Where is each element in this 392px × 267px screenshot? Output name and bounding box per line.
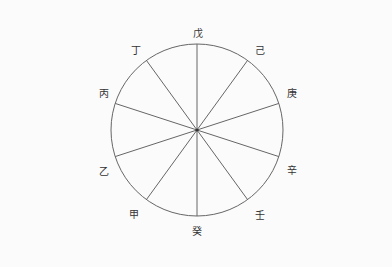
wheel-label: 癸	[192, 223, 202, 238]
spoke-line	[197, 130, 279, 157]
center-point	[196, 129, 199, 132]
wheel-label: 丁	[131, 42, 141, 57]
wheel-label: 壬	[255, 207, 265, 222]
spoke-line	[115, 130, 197, 157]
spoke-line	[197, 103, 279, 130]
spoke-line	[197, 130, 248, 200]
wheel-label: 乙	[99, 163, 109, 178]
wheel-label: 庚	[287, 85, 297, 100]
wheel-label: 戊	[193, 25, 203, 40]
spoke-line	[146, 60, 197, 130]
wheel-label: 辛	[287, 162, 297, 177]
spoke-line	[146, 130, 197, 200]
wheel-label: 己	[255, 42, 265, 57]
spoke-line	[197, 60, 248, 130]
wheel-label: 丙	[99, 85, 109, 100]
spoke-line	[115, 103, 197, 130]
wheel-label: 甲	[129, 206, 139, 221]
